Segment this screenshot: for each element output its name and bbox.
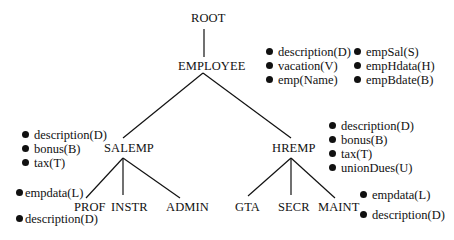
attribute-label: empBdate(B): [366, 73, 433, 87]
salemp-attributes: description(D) bonus(B) tax(T): [22, 128, 107, 170]
bullet-icon: [354, 76, 361, 83]
attribute-item: empBdate(B): [354, 73, 435, 87]
attribute-label: bonus(B): [341, 133, 388, 147]
attribute-label: description(D): [341, 119, 414, 133]
attribute-label: empdata(L): [25, 186, 83, 200]
bullet-icon: [22, 145, 29, 152]
attribute-label: vacation(V): [278, 59, 338, 73]
node-gta: GTA: [235, 200, 260, 214]
bullet-icon: [22, 159, 29, 166]
attribute-label: description(D): [372, 208, 445, 222]
attribute-item: unionDues(U): [329, 161, 414, 175]
attribute-item: tax(T): [22, 156, 107, 170]
attribute-item: description(D): [266, 45, 351, 59]
attribute-item: description(D): [329, 119, 414, 133]
bullet-icon: [354, 48, 361, 55]
node-maint: MAINT: [318, 200, 359, 214]
bullet-icon: [16, 215, 23, 222]
employee-attributes-col2: empSal(S) empHdata(H) empBdate(B): [354, 45, 435, 87]
node-salemp: SALEMP: [104, 141, 154, 155]
prof-attribute-empdata: empdata(L): [16, 186, 83, 200]
bullet-icon: [266, 62, 273, 69]
edge-employee-salemp: [123, 73, 203, 138]
attribute-label: unionDues(U): [341, 161, 413, 175]
attribute-label: empHdata(H): [366, 59, 435, 73]
edge-salemp-admin: [123, 158, 180, 198]
bullet-icon: [266, 48, 273, 55]
attribute-label: description(D): [278, 45, 351, 59]
attribute-item: tax(T): [329, 147, 414, 161]
attribute-label: description(D): [34, 128, 107, 142]
attribute-item: empSal(S): [354, 45, 435, 59]
edge-hremp-gta: [248, 158, 291, 196]
bullet-icon: [360, 191, 367, 198]
attribute-item: empHdata(H): [354, 59, 435, 73]
maint-attribute-description: description(D): [360, 208, 445, 222]
maint-attribute-empdata: empdata(L): [360, 188, 430, 202]
hremp-attributes: description(D) bonus(B) tax(T) unionDues…: [329, 119, 414, 175]
node-employee: EMPLOYEE: [178, 59, 245, 73]
bullet-icon: [22, 131, 29, 138]
attribute-label: tax(T): [341, 147, 372, 161]
bullet-icon: [329, 136, 336, 143]
attribute-label: emp(Name): [278, 73, 338, 87]
bullet-icon: [329, 164, 336, 171]
node-secr: SECR: [278, 200, 310, 214]
bullet-icon: [360, 211, 367, 218]
attribute-label: empSal(S): [366, 45, 419, 59]
attribute-label: bonus(B): [34, 142, 81, 156]
node-root: ROOT: [191, 11, 225, 25]
bullet-icon: [354, 62, 361, 69]
employee-attributes-col1: description(D) vacation(V) emp(Name): [266, 45, 351, 87]
attribute-item: vacation(V): [266, 59, 351, 73]
prof-attribute-description: description(D): [16, 212, 98, 226]
bullet-icon: [329, 150, 336, 157]
attribute-item: bonus(B): [22, 142, 107, 156]
node-admin: ADMIN: [166, 200, 209, 214]
attribute-label: empdata(L): [372, 188, 430, 202]
attribute-label: tax(T): [34, 156, 65, 170]
attribute-label: description(D): [25, 212, 98, 226]
bullet-icon: [266, 76, 273, 83]
bullet-icon: [329, 122, 336, 129]
attribute-item: emp(Name): [266, 73, 351, 87]
node-instr: INSTR: [111, 200, 148, 214]
node-hremp: HREMP: [272, 141, 316, 155]
attribute-item: description(D): [22, 128, 107, 142]
bullet-icon: [16, 189, 23, 196]
attribute-item: bonus(B): [329, 133, 414, 147]
